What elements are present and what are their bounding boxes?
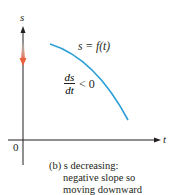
derivative-denominator: dt [64, 85, 75, 95]
figure-caption: (b) s decreasing: negative slope so movi… [49, 160, 142, 195]
caption-line-2: negative slope so [49, 172, 142, 184]
caption-line-1: (b) s decreasing: [49, 160, 142, 172]
s-axis-label: s [20, 11, 24, 23]
derivative-inequality: < 0 [79, 77, 95, 92]
t-axis-label: t [163, 133, 166, 145]
derivative-numerator: ds [64, 72, 75, 82]
curve-label: s = f(t) [78, 40, 110, 52]
s-axis-arrowhead-icon [21, 26, 26, 33]
caption-line-3: moving downward [49, 184, 142, 195]
derivative-fraction: ds dt [64, 72, 75, 95]
origin-label: 0 [13, 141, 19, 153]
t-axis [8, 138, 161, 143]
downward-motion-arrow-icon [20, 42, 27, 66]
t-axis-arrowhead-icon [154, 138, 161, 143]
